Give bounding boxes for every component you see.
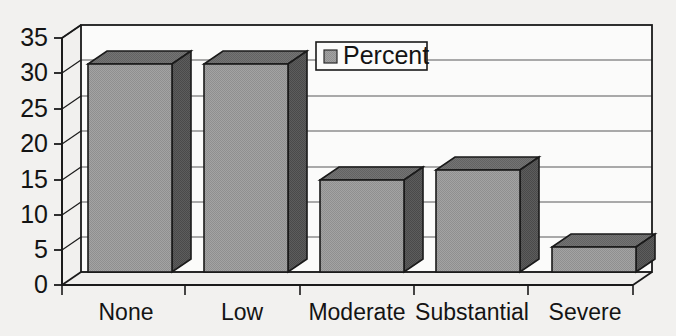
bar-chart: 0 5 10 15 20 25 30 35 None Low Moderate … [0,0,676,336]
legend-label-percent: Percent [343,41,429,69]
y-tick-label-25: 25 [20,94,48,122]
y-tick-label-30: 30 [20,58,48,86]
y-tick-label-10: 10 [20,200,48,228]
x-tick-label-low: Low [221,299,264,325]
plot-left-wall [62,25,81,285]
y-tick-label-35: 35 [20,23,48,51]
legend-swatch-percent [324,50,337,63]
x-tick-label-severe: Severe [549,299,622,325]
bar-moderate [320,167,423,272]
y-tick-label-5: 5 [34,235,48,263]
x-tick-label-substantial: Substantial [415,299,529,325]
y-tick-label-20: 20 [20,129,48,157]
y-tick-label-0: 0 [34,270,48,298]
y-tick-label-15: 15 [20,165,48,193]
bar-none [88,51,191,272]
bar-severe [552,234,655,272]
plot-floor [62,272,652,285]
chart-canvas: 0 5 10 15 20 25 30 35 None Low Moderate … [0,0,676,336]
x-tick-label-none: None [99,299,154,325]
bar-low [204,51,307,272]
x-tick-label-moderate: Moderate [308,299,405,325]
legend: Percent [316,41,429,70]
bar-substantial [436,157,539,272]
